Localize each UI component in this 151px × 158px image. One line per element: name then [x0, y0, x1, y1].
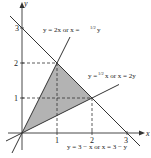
svg-text:y: y — [97, 26, 101, 34]
svg-text:1/2: 1/2 — [90, 25, 96, 30]
x-axis-label: x — [145, 129, 150, 138]
y-tick-3: 3 — [15, 24, 19, 33]
x-axis-arrow-icon — [139, 131, 145, 136]
svg-text:x or x = 2y: x or x = 2y — [105, 72, 136, 80]
label-line-y-2x: y = 2x or x = 1/2 y — [43, 25, 101, 34]
svg-text:y =: y = — [88, 72, 97, 80]
y-axis-label: y — [23, 0, 28, 8]
svg-text:1/2: 1/2 — [98, 71, 104, 76]
label-line-y-3-minus-x: y = 3 − x or x = 3 − y — [67, 143, 128, 151]
y-tick-1: 1 — [14, 94, 18, 103]
x-tick-1: 1 — [55, 136, 59, 145]
svg-text:y = 2x or x =: y = 2x or x = — [43, 26, 80, 34]
label-line-y-half-x: y = 1/2 x or x = 2y — [88, 71, 136, 80]
region-diagram: x y 1 2 3 1 2 3 y = 2x or x = 1/2 y y = … — [0, 0, 151, 158]
y-tick-2: 2 — [14, 59, 18, 68]
